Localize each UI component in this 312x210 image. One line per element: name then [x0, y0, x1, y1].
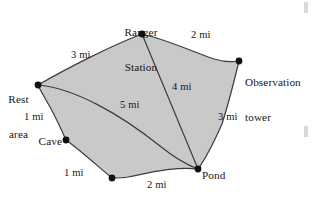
node-beaver-dam[interactable] — [109, 175, 116, 182]
node-pond[interactable] — [195, 166, 202, 173]
edge-label-rest-area-cave: 1 mi — [24, 111, 44, 122]
node-label-rest-area-line1: Rest — [0, 94, 37, 106]
node-label-ranger-station-line2: Station — [104, 62, 178, 74]
node-label-cave: Cave — [30, 136, 62, 148]
edge-label-cave-beaver-dam: 1 mi — [64, 167, 84, 178]
edge-label-ranger-station-observation-tower: 2 mi — [191, 29, 211, 40]
edge-label-rest-area-ranger-station: 3 mi — [71, 49, 91, 60]
trail-map-diagram: Ranger Station Observation tower Rest ar… — [0, 0, 312, 209]
node-label-observation-tower-line1: Observation — [245, 77, 311, 89]
node-cave[interactable] — [63, 137, 70, 144]
node-observation-tower[interactable] — [236, 58, 243, 65]
node-label-beaver-dam: Beaver dam — [82, 183, 144, 209]
scan-artifact-bottom — [304, 126, 308, 137]
edge-label-beaver-dam-pond: 2 mi — [147, 179, 167, 190]
edge-label-rest-area-pond: 5 mi — [120, 99, 140, 110]
node-label-beaver-dam-line1: Beaver — [82, 207, 144, 210]
node-label-ranger-station: Ranger Station — [104, 3, 178, 97]
edge-label-ranger-station-pond: 4 mi — [172, 81, 192, 92]
scan-artifact-top — [304, 2, 308, 13]
node-label-ranger-station-line1: Ranger — [104, 27, 178, 39]
edge-label-observation-tower-pond: 3 mi — [218, 111, 238, 122]
node-label-observation-tower: Observation tower — [245, 53, 311, 147]
node-label-pond: Pond — [202, 170, 242, 182]
node-label-observation-tower-line2: tower — [245, 112, 311, 124]
